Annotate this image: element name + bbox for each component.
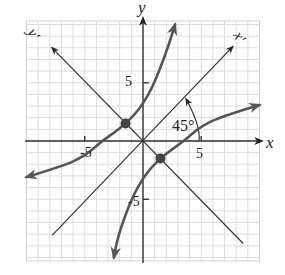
x-tick-label-neg5: -5 xyxy=(80,145,92,160)
chart: x y x' y' 45° -5 5 5 -5 xyxy=(0,0,285,275)
y-tick-label-neg5: -5 xyxy=(128,194,140,209)
y-axis-label: y xyxy=(136,0,146,17)
rotation-angle-label: 45° xyxy=(172,117,194,134)
y-tick-label-5: 5 xyxy=(125,74,132,89)
x-prime-label: x' xyxy=(230,28,250,46)
x-tick-label-5: 5 xyxy=(196,146,203,161)
vertex-point xyxy=(121,119,131,129)
x-axis-label: x xyxy=(265,133,274,152)
vertex-point xyxy=(155,153,165,163)
